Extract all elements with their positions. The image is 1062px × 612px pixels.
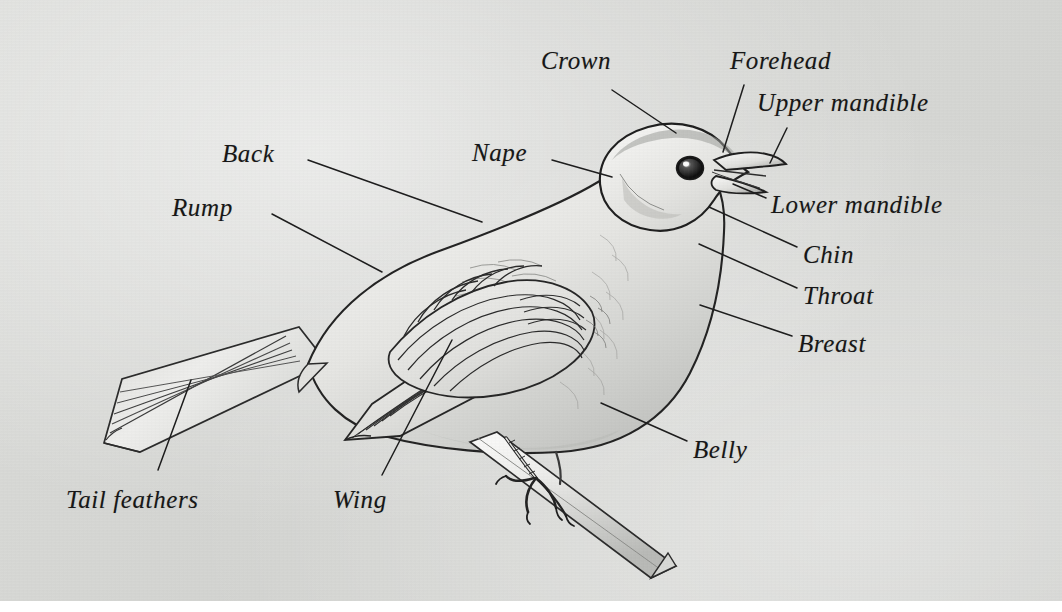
- leader-line-back: [308, 160, 482, 222]
- leader-line-throat: [699, 244, 797, 288]
- leader-line-nape: [552, 160, 612, 177]
- page-bottom-edge: [0, 601, 1062, 612]
- label-tail-feathers: Tail feathers: [66, 487, 199, 512]
- label-rump: Rump: [172, 195, 233, 220]
- leader-line-lower-mandible: [733, 184, 766, 198]
- leader-line-belly: [601, 403, 687, 441]
- leader-line-tail-feathers: [158, 380, 191, 470]
- label-chin: Chin: [803, 242, 854, 267]
- label-lower-mandible: Lower mandible: [771, 192, 943, 217]
- label-back: Back: [222, 141, 274, 166]
- label-nape: Nape: [472, 140, 527, 165]
- label-throat: Throat: [803, 283, 874, 308]
- bird-anatomy-figure: CrownForeheadUpper mandibleNapeBackRumpL…: [0, 0, 1062, 612]
- leader-line-breast: [700, 305, 792, 336]
- leader-line-forehead: [723, 85, 744, 152]
- leader-line-rump: [272, 214, 382, 272]
- leader-line-crown: [612, 90, 676, 133]
- label-upper-mandible: Upper mandible: [757, 90, 929, 115]
- leader-line-upper-mandible: [770, 128, 787, 163]
- label-forehead: Forehead: [730, 48, 831, 73]
- label-wing: Wing: [333, 487, 387, 512]
- leader-line-wing: [382, 340, 452, 475]
- label-crown: Crown: [541, 48, 611, 73]
- label-belly: Belly: [693, 437, 747, 462]
- label-breast: Breast: [798, 331, 866, 356]
